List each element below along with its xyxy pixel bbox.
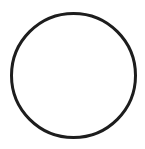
- drawing-canvas: Empty circle outline: [0, 0, 145, 149]
- canvas-background: [0, 0, 145, 149]
- circle-figure: [0, 0, 145, 149]
